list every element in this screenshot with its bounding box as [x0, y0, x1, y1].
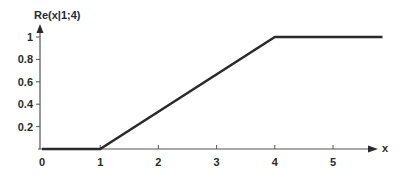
- axes: [37, 24, 379, 153]
- y-tick-label: 0.4: [18, 98, 34, 110]
- x-tick-label: 1: [97, 156, 103, 168]
- y-tick-label: 0.2: [18, 121, 33, 133]
- y-axis-title: Re(x|1;4): [34, 9, 81, 21]
- x-axis-arrow-icon: [368, 146, 378, 153]
- x-tick-label: 3: [214, 156, 220, 168]
- y-tick-label: 0.6: [18, 76, 33, 88]
- x-tick-label: 4: [272, 156, 279, 168]
- y-axis-arrow-icon: [37, 24, 44, 33]
- y-tick-label: 0.8: [18, 53, 33, 65]
- x-tick-label: 2: [155, 156, 161, 168]
- chart-canvas: 012345 0.20.40.60.81 Re(x|1;4) x: [0, 0, 402, 182]
- series-line: [42, 37, 383, 149]
- x-tick-label: 5: [330, 156, 336, 168]
- y-tick-label: 1: [27, 31, 33, 43]
- y-ticks: 0.20.40.60.81: [18, 31, 40, 133]
- x-axis-title: x: [382, 142, 389, 154]
- x-tick-label: 0: [39, 156, 45, 168]
